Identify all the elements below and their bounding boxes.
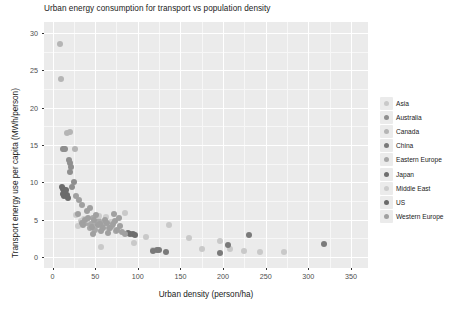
x-tick-label: 200 <box>203 272 243 281</box>
data-point <box>105 230 111 236</box>
legend-key-swatch <box>380 139 393 152</box>
data-point <box>98 228 104 234</box>
data-point <box>246 232 252 238</box>
x-tick-mark <box>138 268 139 270</box>
y-tick-mark <box>42 108 44 109</box>
data-point <box>281 249 287 255</box>
legend-key-swatch <box>380 125 393 138</box>
legend-key-swatch <box>380 153 393 166</box>
x-axis-label: Urban density (person/ha) <box>0 290 412 299</box>
data-point <box>186 235 192 241</box>
legend-item-canada[interactable]: Canada <box>380 124 453 138</box>
legend-marker-icon <box>384 172 389 177</box>
data-point <box>69 184 75 190</box>
x-tick-label: 350 <box>331 272 371 281</box>
legend-marker-icon <box>384 200 389 205</box>
data-point <box>57 41 63 47</box>
legend-item-eastern-europe[interactable]: Eastern Europe <box>380 153 453 167</box>
legend-key-swatch <box>380 168 393 181</box>
data-point <box>132 232 138 238</box>
data-point <box>67 169 73 175</box>
y-tick-label: 25 <box>10 66 38 75</box>
data-point <box>257 249 263 255</box>
y-tick-mark <box>42 257 44 258</box>
legend-item-label: China <box>396 142 413 149</box>
legend-item-label: Australia <box>396 114 422 121</box>
data-point <box>122 210 128 216</box>
x-tick-label: 50 <box>75 272 115 281</box>
y-tick-mark <box>42 145 44 146</box>
legend-key-swatch <box>380 196 393 209</box>
legend-item-label: Japan <box>396 171 414 178</box>
chart-title: Urban energy consumption for transport v… <box>44 4 270 13</box>
legend-marker-icon <box>384 129 389 134</box>
data-point <box>80 222 86 228</box>
legend-item-label: Canada <box>396 128 419 135</box>
legend-item-asia[interactable]: Asia <box>380 96 453 110</box>
legend-marker-icon <box>384 143 389 148</box>
y-tick-label: 30 <box>10 29 38 38</box>
legend-key-swatch <box>380 111 393 124</box>
x-tick-label: 100 <box>118 272 158 281</box>
chart-figure: Urban energy consumption for transport v… <box>0 0 453 310</box>
y-tick-mark <box>42 220 44 221</box>
data-point <box>60 191 66 197</box>
plot-panel <box>44 22 368 268</box>
x-tick-mark <box>180 268 181 270</box>
x-tick-label: 250 <box>246 272 286 281</box>
legend-marker-icon <box>384 214 389 219</box>
data-point <box>163 249 169 255</box>
data-point <box>72 146 78 152</box>
legend-marker-icon <box>384 101 389 106</box>
y-axis-label: Transport energy use per capita (MWh/per… <box>11 88 20 258</box>
y-tick-mark <box>42 182 44 183</box>
x-tick-mark <box>53 268 54 270</box>
data-point <box>166 222 172 228</box>
data-point <box>75 211 81 217</box>
data-point <box>62 146 68 152</box>
legend-item-china[interactable]: China <box>380 139 453 153</box>
legend-marker-icon <box>384 157 389 162</box>
data-point <box>67 129 73 135</box>
data-point <box>156 247 162 253</box>
data-point <box>58 76 64 82</box>
data-point <box>87 205 93 211</box>
legend-item-label: Asia <box>396 100 409 107</box>
legend-item-japan[interactable]: Japan <box>380 167 453 181</box>
data-point <box>143 234 149 240</box>
legend-item-middle-east[interactable]: Middle East <box>380 181 453 195</box>
x-tick-label: 150 <box>160 272 200 281</box>
data-point <box>98 244 104 250</box>
legend-key-swatch <box>380 97 393 110</box>
legend-key-swatch <box>380 210 393 223</box>
x-tick-mark <box>266 268 267 270</box>
data-point <box>90 231 96 237</box>
legend-marker-icon <box>384 186 389 191</box>
legend-item-label: Middle East <box>396 185 430 192</box>
data-point <box>131 240 137 246</box>
legend-key-swatch <box>380 182 393 195</box>
legend: AsiaAustraliaCanadaChinaEastern EuropeJa… <box>380 96 453 224</box>
y-tick-mark <box>42 70 44 71</box>
legend-marker-icon <box>384 115 389 120</box>
legend-item-australia[interactable]: Australia <box>380 110 453 124</box>
data-point <box>199 246 205 252</box>
data-point <box>217 250 223 256</box>
data-point <box>65 195 71 201</box>
x-tick-label: 300 <box>288 272 328 281</box>
legend-item-us[interactable]: US <box>380 195 453 209</box>
scatter-points-layer <box>44 22 368 268</box>
legend-item-western-europe[interactable]: Western Europe <box>380 210 453 224</box>
x-tick-mark <box>308 268 309 270</box>
legend-item-label: Eastern Europe <box>396 156 442 163</box>
legend-item-label: US <box>396 199 405 206</box>
legend-item-label: Western Europe <box>396 213 444 220</box>
x-tick-mark <box>351 268 352 270</box>
x-tick-mark <box>95 268 96 270</box>
x-tick-mark <box>223 268 224 270</box>
data-point <box>122 231 128 237</box>
data-point <box>89 224 95 230</box>
data-point <box>116 215 122 221</box>
data-point <box>241 248 247 254</box>
data-point <box>217 238 223 244</box>
